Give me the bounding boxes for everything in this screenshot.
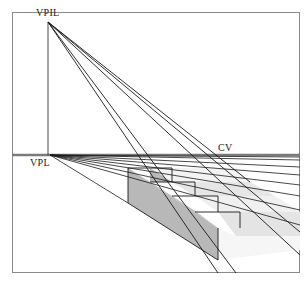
stair-tread-4: [218, 212, 300, 236]
vpil-label: VPIL: [36, 7, 59, 18]
perspective-diagram: VPIL VPL CV: [0, 0, 308, 282]
diagram-canvas: [0, 0, 308, 282]
cv-label: CV: [218, 142, 233, 153]
vpl-label: VPL: [30, 157, 50, 168]
